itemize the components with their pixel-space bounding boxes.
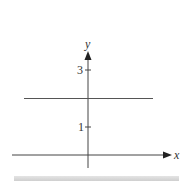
y-axis-arrow-icon [85, 51, 92, 60]
tick-label-1: 1 [78, 120, 84, 134]
x-axis-label: x [173, 148, 180, 162]
page-edge-shadow [14, 176, 179, 181]
y-axis-label: y [84, 37, 91, 51]
chart: y x 3 1 [0, 0, 190, 181]
tick-label-3: 3 [77, 63, 83, 77]
x-axis-arrow-icon [163, 152, 172, 159]
